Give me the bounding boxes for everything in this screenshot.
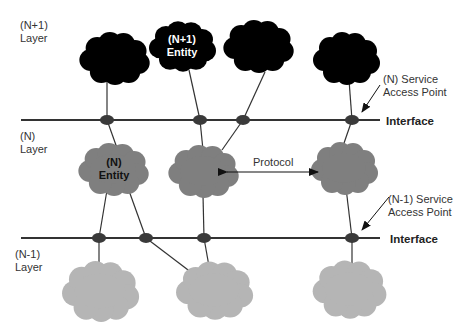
entity-label-line2: Entity (89, 169, 139, 182)
layer-label-line1: (N-1) (15, 248, 43, 261)
layer-label-line2: Layer (20, 32, 48, 45)
layer-label-line1: (N+1) (20, 19, 48, 32)
n-entity-label: (N) Entity (89, 156, 139, 182)
layer-label-line1: (N) (20, 130, 48, 143)
interface-label-upper: Interface (386, 115, 434, 128)
layer-label-n: (N) Layer (20, 130, 48, 156)
entity-label-line1: (N+1) (157, 33, 207, 46)
n-minus-1-sap-callout-arrow (362, 197, 389, 230)
protocol-label: Protocol (253, 156, 293, 169)
n-sap-label: (N) Service Access Point (383, 73, 447, 99)
layer-label-line2: Layer (20, 143, 48, 156)
layer-label-n-minus-1: (N-1) Layer (15, 248, 43, 274)
n-minus-1-cloud-2 (176, 261, 253, 319)
entity-label-line2: Entity (157, 46, 207, 59)
n-plus-1-cloud-1 (79, 32, 149, 85)
n-plus-1-clouds (79, 20, 380, 85)
n-plus-1-entity-label: (N+1) Entity (157, 33, 207, 59)
sap-label-line2: Access Point (388, 206, 453, 219)
interface-label-lower: Interface (390, 233, 438, 246)
layer-label-n-plus-1: (N+1) Layer (20, 19, 48, 45)
n-minus-1-cloud-1 (62, 261, 139, 322)
sap-label-line1: (N) Service (383, 73, 447, 86)
n-minus-1-cloud-3 (313, 260, 387, 318)
sap-label-line1: (N-1) Service (388, 193, 453, 206)
n-plus-1-cloud-3 (223, 20, 293, 73)
n-sap-callout-arrow (362, 85, 380, 112)
sap-label-line2: Access Point (383, 86, 447, 99)
layer-diagram-canvas (0, 0, 464, 332)
n-cloud-3 (311, 142, 378, 195)
layer-label-line2: Layer (15, 261, 43, 274)
n-minus-1-sap-label: (N-1) Service Access Point (388, 193, 453, 219)
n-plus-1-cloud-4 (313, 32, 380, 85)
n-minus-1-clouds (62, 260, 386, 322)
entity-label-line1: (N) (89, 156, 139, 169)
